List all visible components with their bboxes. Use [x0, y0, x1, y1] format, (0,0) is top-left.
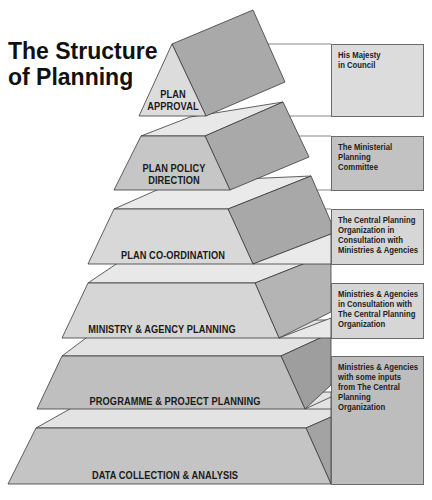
tier-label-plan-policy: PLAN POLICY DIRECTION — [128, 162, 220, 186]
title-line-1: The Structure — [8, 38, 158, 64]
tier-label-data-collection: DATA COLLECTION & ANALYSIS — [64, 469, 266, 481]
responsible-box-plan-policy: The Ministerial Planning Committee — [331, 136, 424, 191]
responsible-text: The Ministerial Planning Committee — [338, 142, 428, 172]
responsible-text: His Majesty in Council — [338, 50, 428, 70]
title-line-2: of Planning — [8, 64, 158, 90]
responsible-text: Ministries & Agencies with some inputs f… — [338, 362, 428, 412]
tier-label-ministry-agency: MINISTRY & AGENCY PLANNING — [74, 323, 250, 335]
responsible-box-plan-approval: His Majesty in Council — [331, 44, 424, 117]
responsible-text: Ministries & Agencies in Consultation wi… — [338, 289, 428, 329]
responsible-box-ministry-agency: Ministries & Agencies in Consultation wi… — [331, 283, 424, 339]
responsible-text: The Central Planning Organization in Con… — [338, 215, 428, 255]
responsible-box-programme-data: Ministries & Agencies with some inputs f… — [331, 356, 424, 485]
tier-label-programme-project: PROGRAMME & PROJECT PLANNING — [74, 395, 276, 407]
diagram-title: The Structure of Planning — [8, 38, 158, 90]
tier-label-plan-coordination: PLAN CO-ORDINATION — [107, 249, 239, 261]
tier-label-plan-approval: PLAN APPROVAL — [144, 88, 202, 112]
responsible-box-plan-coordination: The Central Planning Organization in Con… — [331, 209, 424, 265]
